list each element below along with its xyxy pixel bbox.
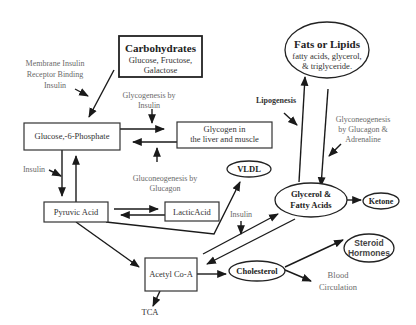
fats-line1: fatty acids, glycerol, bbox=[292, 51, 361, 61]
glycogen-line1: Glycogen in bbox=[204, 124, 247, 134]
arrow-membrane-insulin bbox=[75, 89, 88, 96]
metabolism-diagram: Carbohydrates Glucose, Fructose, Galacto… bbox=[0, 0, 416, 325]
arrow-glycerol-to-fats bbox=[299, 77, 305, 182]
node-lactic-acid: LacticAcid bbox=[165, 202, 219, 221]
membrane-line3: Insulin bbox=[44, 81, 66, 90]
glyconeogenesis-line2: by Glucagon & bbox=[338, 125, 388, 134]
fats-line2: & triglyceride. bbox=[302, 61, 352, 71]
arrow-pyruvic-to-acetyl bbox=[76, 222, 139, 267]
arrow-acetyl-to-tca bbox=[153, 291, 160, 306]
membrane-line2: Receptor Binding bbox=[27, 70, 84, 79]
glycogen-line2: the liver and muscle bbox=[190, 134, 259, 144]
glycerol-line1: Glycerol & bbox=[291, 189, 331, 199]
gluconeogenesis-line1: Gluconeogenesis by bbox=[133, 174, 198, 183]
glycogenesis-line1: Glycogenesis by bbox=[122, 91, 175, 100]
label-membrane-insulin: Membrane Insulin Receptor Binding Insuli… bbox=[26, 59, 85, 90]
blood-line1: Blood bbox=[328, 270, 350, 280]
carbohydrates-title: Carbohydrates bbox=[125, 42, 197, 54]
membrane-line1: Membrane Insulin bbox=[26, 59, 85, 68]
blood-line2: Circulation bbox=[319, 282, 358, 292]
arrow-glyconeogenesis bbox=[329, 144, 341, 156]
fats-title: Fats or Lipids bbox=[294, 38, 361, 50]
node-ketone: Ketone bbox=[363, 193, 399, 209]
node-steroid-hormones: Steroid Hormones bbox=[344, 234, 394, 262]
node-glucose-6-phosphate: Glucose,-6-Phosphate bbox=[24, 123, 120, 150]
label-glyconeogenesis: Glyconeogenesis by Glucagon & Adrenaline bbox=[336, 115, 391, 144]
label-glycogenesis: Glycogenesis by Insulin bbox=[122, 91, 175, 110]
acetyl-label: Acetyl Co-A bbox=[149, 269, 194, 279]
gluconeogenesis-line2: Glucagon bbox=[149, 184, 180, 193]
glyconeogenesis-line3: Adrenaline bbox=[345, 135, 381, 144]
ketone-label: Ketone bbox=[369, 197, 394, 206]
arrow-glycerol-to-acetyl bbox=[207, 219, 295, 264]
arrow-carbs-to-g6p bbox=[89, 70, 114, 117]
label-lipogenesis: Lipogenesis bbox=[256, 96, 296, 105]
glycerol-line2: Fatty Acids bbox=[290, 200, 332, 210]
lactic-label: LacticAcid bbox=[173, 207, 212, 217]
label-gluconeogenesis: Gluconeogenesis by Glucagon bbox=[133, 174, 198, 193]
label-insulin-left: Insulin bbox=[23, 165, 45, 174]
node-carbohydrates: Carbohydrates Glucose, Fructose, Galacto… bbox=[119, 36, 202, 77]
glycogenesis-line2: Insulin bbox=[138, 101, 160, 110]
arrow-cholesterol-to-blood bbox=[285, 270, 311, 281]
node-fats-lipids: Fats or Lipids fatty acids, glycerol, & … bbox=[285, 22, 369, 78]
arrow-insulin-left bbox=[49, 170, 61, 176]
vldl-label: VLDL bbox=[237, 164, 261, 174]
tca-label: TCA bbox=[142, 307, 160, 317]
steroid-line2: Hormones bbox=[348, 248, 390, 258]
node-pyruvic-acid: Pyruvic Acid bbox=[44, 202, 108, 222]
node-cholesterol: Cholesterol bbox=[229, 261, 285, 281]
arrow-fats-to-glycerol bbox=[321, 89, 328, 186]
carbohydrates-line1: Glucose, Fructose, bbox=[129, 55, 193, 65]
node-acetyl-coa: Acetyl Co-A bbox=[145, 258, 197, 291]
glyconeogenesis-line1: Glyconeogenesis bbox=[336, 115, 391, 124]
node-glycerol-fatty-acids: Glycerol & Fatty Acids bbox=[275, 183, 347, 217]
label-insulin-mid: Insulin bbox=[230, 210, 252, 219]
arrow-lipogenesis bbox=[284, 113, 297, 125]
cholesterol-label: Cholesterol bbox=[236, 266, 278, 276]
glucose6p-label: Glucose,-6-Phosphate bbox=[35, 131, 110, 141]
pyruvic-label: Pyruvic Acid bbox=[54, 207, 99, 217]
node-vldl: VLDL bbox=[227, 161, 271, 177]
steroid-line1: Steroid bbox=[354, 238, 383, 248]
arrow-cholesterol-to-steroid bbox=[285, 240, 343, 267]
node-glycogen: Glycogen in the liver and muscle bbox=[177, 122, 272, 148]
carbohydrates-line2: Galactose bbox=[144, 65, 178, 75]
